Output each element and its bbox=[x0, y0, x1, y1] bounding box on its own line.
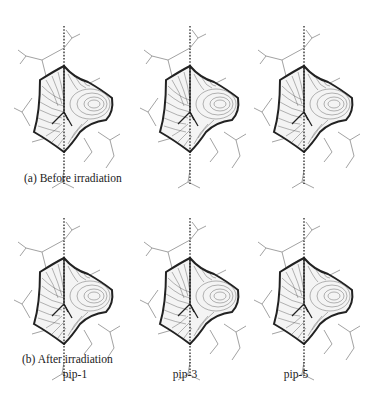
contour-surface-plot bbox=[128, 20, 248, 190]
contour-surface-plot bbox=[128, 212, 248, 382]
panel-b-pip-3 bbox=[128, 212, 248, 382]
caption-before-irradiation: (a) Before irradiation bbox=[24, 172, 122, 184]
column-label-pip-3: pip-3 bbox=[145, 368, 225, 380]
column-label-pip-5: pip-5 bbox=[256, 368, 336, 380]
panel-b-pip-5 bbox=[242, 212, 362, 382]
panel-a-pip-1 bbox=[2, 20, 122, 190]
contour-surface-plot bbox=[2, 20, 122, 190]
column-label-pip-1: pip-1 bbox=[35, 368, 115, 380]
contour-surface-plot bbox=[242, 212, 362, 382]
contour-surface-plot bbox=[242, 20, 362, 190]
panel-a-pip-3 bbox=[128, 20, 248, 190]
caption-after-irradiation: (b) After irradiation bbox=[22, 353, 113, 365]
panel-a-pip-5 bbox=[242, 20, 362, 190]
